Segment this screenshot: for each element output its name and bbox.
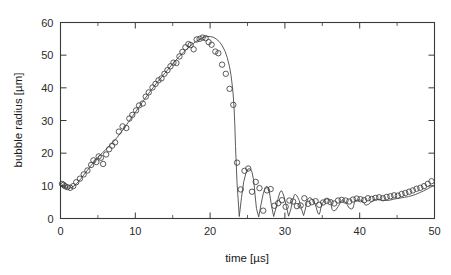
x-axis-tick-labels: 01020304050 <box>57 225 440 237</box>
data-point <box>150 85 155 90</box>
data-point <box>429 179 434 184</box>
x-tick-label: 40 <box>354 225 366 237</box>
data-point <box>279 198 284 203</box>
bubble-radius-figure: 01020304050 0102030405060 time [µs] bubb… <box>0 0 451 275</box>
data-point <box>403 190 408 195</box>
data-point <box>376 195 381 200</box>
data-point <box>219 62 224 67</box>
data-point <box>146 90 151 95</box>
y-tick-label: 60 <box>41 17 53 29</box>
data-point <box>106 147 111 152</box>
x-axis-major-ticks <box>61 23 435 219</box>
data-point <box>133 108 138 113</box>
y-axis-tick-labels: 0102030405060 <box>41 17 53 225</box>
data-point <box>227 86 232 91</box>
data-point <box>384 194 389 199</box>
data-point <box>294 203 299 208</box>
data-point <box>257 185 262 190</box>
data-point <box>302 196 307 201</box>
data-point <box>369 196 374 201</box>
data-point <box>388 194 393 199</box>
x-tick-label: 10 <box>129 225 141 237</box>
x-axis-title: time [µs] <box>225 252 269 264</box>
data-point <box>223 71 228 76</box>
data-point <box>183 45 188 50</box>
data-point <box>332 201 337 206</box>
data-point <box>335 198 340 203</box>
x-tick-label: 0 <box>57 225 63 237</box>
data-point <box>261 208 266 213</box>
data-point <box>103 152 108 157</box>
y-tick-label: 10 <box>41 180 53 192</box>
y-tick-label: 20 <box>41 147 53 159</box>
data-point <box>231 102 236 107</box>
data-point <box>287 198 292 203</box>
y-tick-label: 40 <box>41 82 53 94</box>
data-point <box>249 189 254 194</box>
data-point <box>275 200 280 205</box>
plot-frame <box>61 23 435 219</box>
data-point <box>358 197 363 202</box>
x-tick-label: 30 <box>279 225 291 237</box>
y-tick-label: 50 <box>41 49 53 61</box>
x-axis-minor-ticks <box>98 23 397 219</box>
data-point <box>100 161 105 166</box>
y-tick-label: 30 <box>41 115 53 127</box>
x-tick-label: 20 <box>204 225 216 237</box>
data-point <box>406 189 411 194</box>
x-tick-label: 50 <box>428 225 440 237</box>
data-point <box>116 129 121 134</box>
data-point <box>234 160 239 165</box>
data-point <box>191 47 196 52</box>
data-point <box>339 197 344 202</box>
bubble-radius-chart: 01020304050 0102030405060 time [µs] bubb… <box>0 0 451 275</box>
y-axis-title: bubble radius [µm] <box>12 73 24 168</box>
y-tick-label: 0 <box>47 213 53 225</box>
model-fit-curve <box>61 37 435 217</box>
measured-data-markers <box>59 35 434 214</box>
